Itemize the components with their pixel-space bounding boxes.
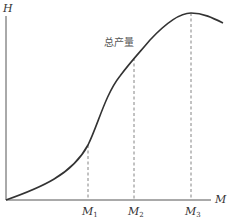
- x-axis-label: M: [214, 193, 227, 206]
- total-product-chart: H M 总产量 M1 M2 M3: [0, 0, 228, 220]
- y-axis-label: H: [2, 2, 13, 15]
- tick-m2: M2: [127, 205, 144, 219]
- tick-m1: M1: [81, 205, 98, 219]
- tick-m3: M3: [184, 205, 201, 219]
- curve-label: 总产量: [104, 36, 134, 48]
